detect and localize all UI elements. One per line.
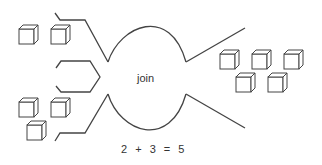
cube-icon [268,73,287,92]
cube-icon [220,50,239,69]
bottom-output-line [186,94,245,128]
cube-icon [51,25,70,44]
cube-icon [19,98,38,117]
group-sum [220,50,303,92]
join-diagram [0,0,322,165]
cube-icon [51,98,70,117]
join-label: join [137,72,154,84]
group-second-addend [19,98,70,140]
cube-icon [236,73,255,92]
join-oval-bottom [108,94,186,130]
join-oval-top [108,26,186,62]
cube-icon [252,50,271,69]
cube-icon [19,25,38,44]
group-first-addend [19,25,70,44]
cube-icon [27,121,46,140]
cube-icon [284,50,303,69]
equation-label: 2 + 3 = 5 [121,143,185,155]
middle-bracket [56,61,100,92]
